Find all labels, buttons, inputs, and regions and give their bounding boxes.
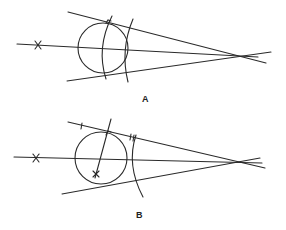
perpendicular-line-b: [95, 119, 111, 178]
arc-b: [132, 135, 143, 197]
upper-tangent-a: [68, 12, 266, 63]
figure-a: [17, 12, 271, 82]
figure-b: [14, 119, 265, 197]
axis-line-b: [14, 157, 262, 163]
figure-label-a: A: [142, 94, 149, 104]
arc-1-a: [102, 16, 112, 79]
geometry-diagram: [0, 0, 286, 230]
circle-b: [75, 132, 127, 184]
axis-line-a: [17, 44, 258, 57]
lower-tangent-b: [62, 158, 260, 194]
lower-tangent-a: [67, 52, 271, 81]
figure-label-b: B: [136, 210, 143, 220]
tick-mark-single-b: [81, 123, 82, 129]
